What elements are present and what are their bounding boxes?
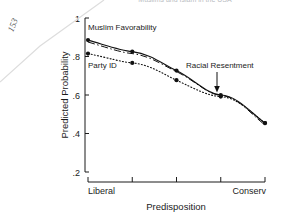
data-point bbox=[174, 69, 178, 73]
data-point bbox=[130, 61, 134, 65]
y-tick-label: .2 bbox=[72, 168, 80, 178]
y-tick-label: 1 bbox=[75, 14, 80, 24]
figure-panel: 153 Muslims and Islam in the USA 1 .8 .6… bbox=[0, 0, 285, 218]
x-tick-label-conserv: Conserv bbox=[232, 186, 266, 196]
series-label-racial-resentment: Racial Resentment bbox=[186, 61, 254, 70]
series-label-muslim-favorability: Muslim Favorability bbox=[88, 23, 156, 32]
data-point bbox=[219, 95, 223, 99]
series-label-party-id: Party ID bbox=[88, 61, 117, 70]
line-chart: 1 .8 .6 .4 .2 Predicted Probability Libe… bbox=[0, 0, 285, 218]
x-axis-title: Predisposition bbox=[146, 201, 206, 212]
y-tick-label: .4 bbox=[72, 129, 80, 139]
y-tick-label: .8 bbox=[72, 52, 80, 62]
y-tick-label: .6 bbox=[72, 91, 80, 101]
data-point bbox=[86, 52, 90, 56]
y-axis-title: Predicted Probability bbox=[59, 51, 70, 138]
x-tick-label-liberal: Liberal bbox=[88, 186, 115, 196]
data-point bbox=[263, 121, 267, 125]
data-point bbox=[174, 78, 178, 82]
x-axis-ticks bbox=[88, 177, 265, 182]
annotation-arrow-icon bbox=[214, 72, 220, 93]
series-line-racial-resentment bbox=[88, 42, 265, 125]
data-point bbox=[86, 38, 90, 42]
page-header-title: Muslims and Islam in the USA bbox=[95, 0, 275, 3]
data-point bbox=[130, 50, 134, 54]
